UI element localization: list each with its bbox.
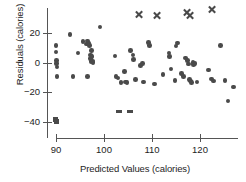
data-point [146,40,151,45]
x-tick-2 [152,134,153,142]
data-point [55,65,60,70]
data-point [161,72,166,77]
data-point [88,53,93,58]
data-point [211,79,216,84]
data-point [54,50,59,55]
data-point [90,59,95,64]
data-point [209,77,214,82]
data-point [185,58,190,63]
y-tick-2 [43,92,52,93]
data-point [91,60,96,65]
data-point [54,58,59,63]
data-point [81,39,86,44]
data-point [167,51,172,56]
data-point [131,57,136,62]
data-point [169,67,174,72]
data-point [188,79,193,84]
data-point [71,74,76,79]
data-point [141,80,146,85]
y-tick-label-0: 20 [0,28,40,38]
data-point [127,110,133,113]
y-axis-line [47,8,48,138]
data-point [85,39,90,44]
data-point [131,53,136,58]
data-point [119,80,124,85]
data-point [54,119,59,124]
data-point [174,44,179,49]
x-tick-3 [200,134,201,142]
data-point [113,54,118,59]
data-point [183,8,192,17]
data-point [193,61,198,66]
data-point [206,68,211,73]
x-tick-label-0: 90 [36,145,76,155]
data-point [55,74,60,79]
data-point [122,69,127,74]
data-point [152,11,161,20]
data-point [54,43,59,48]
y-tick-3 [43,122,52,123]
data-point [87,43,92,48]
data-point [179,71,184,76]
data-point [123,80,128,85]
data-point [53,117,58,122]
data-point [125,80,130,85]
data-point [89,59,94,64]
data-point [138,63,143,68]
data-point [191,62,196,67]
data-point [116,76,121,81]
x-tick-label-2: 110 [132,145,172,155]
data-point [195,80,200,85]
data-point [167,54,172,59]
data-point [76,51,81,56]
data-point [175,41,180,46]
data-point [116,110,122,113]
x-tick-label-1: 100 [84,145,124,155]
x-tick-1 [104,134,105,142]
data-point [147,43,152,48]
data-point [226,99,231,104]
data-point [140,61,145,66]
data-point [54,61,59,66]
data-point [87,41,92,46]
y-tick-1 [43,63,52,64]
data-point [223,78,228,83]
x-axis-line [56,138,238,139]
data-point [85,74,90,79]
data-point [84,42,89,47]
data-point [181,74,186,79]
data-point [89,48,94,53]
data-point [152,82,157,87]
data-point [187,77,192,82]
data-point [128,48,133,53]
data-point [133,77,138,82]
data-point [185,11,194,20]
data-point [114,74,119,79]
y-tick-label-1: 0 [0,58,40,68]
data-point [218,43,223,48]
data-point [88,56,93,61]
data-point [68,32,73,37]
data-point [183,56,188,61]
data-point [191,60,196,65]
data-point [186,62,191,67]
y-tick-label-2: −20 [0,87,40,97]
x-tick-label-3: 120 [180,145,220,155]
x-tick-0 [56,134,57,142]
scatter-plot: Residuals (calories) Predicted Values (c… [0,0,246,182]
x-axis-title: Predicted Values (calories) [40,163,230,174]
data-point [90,54,95,59]
y-tick-label-3: −40 [0,117,40,127]
data-point [208,5,217,14]
data-point [189,80,194,85]
data-point [135,10,144,19]
y-tick-0 [43,33,52,34]
data-point [98,25,103,30]
data-point [231,85,236,90]
data-point [173,78,178,83]
